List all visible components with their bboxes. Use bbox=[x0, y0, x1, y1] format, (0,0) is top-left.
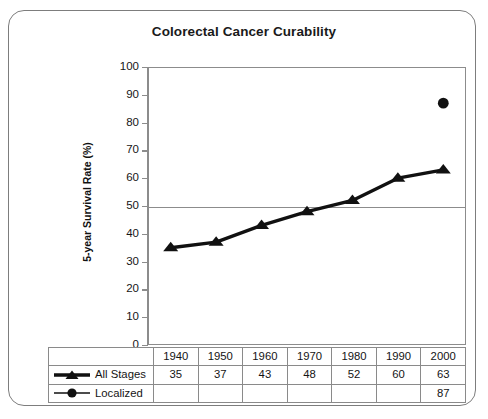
y-tick-label: 20 bbox=[109, 283, 139, 295]
y-tick-label: 40 bbox=[109, 228, 139, 240]
table-cell: 35 bbox=[154, 366, 199, 385]
table-header-year: 1960 bbox=[243, 347, 288, 366]
table-cell bbox=[332, 384, 377, 403]
y-tick-label: 10 bbox=[109, 311, 139, 323]
y-tick-mark bbox=[142, 234, 148, 235]
table-cell bbox=[376, 384, 421, 403]
circle-marker-icon bbox=[53, 386, 91, 400]
y-tick-mark bbox=[142, 206, 148, 207]
table-cell: 87 bbox=[421, 384, 466, 403]
table-cell: 63 bbox=[421, 366, 466, 385]
gridline-50 bbox=[149, 207, 465, 208]
y-tick-label: 50 bbox=[109, 200, 139, 212]
y-tick-mark bbox=[142, 150, 148, 151]
y-tick-label: 30 bbox=[109, 256, 139, 268]
table-cell: 48 bbox=[287, 366, 332, 385]
y-tick-label: 70 bbox=[109, 144, 139, 156]
legend-label-all-stages: All Stages bbox=[95, 366, 146, 384]
table-cell: 60 bbox=[376, 366, 421, 385]
chart-screenshot: Colorectal Cancer Curability 5-year Surv… bbox=[0, 0, 488, 419]
y-tick-mark bbox=[142, 178, 148, 179]
data-table: 1940 1950 1960 1970 1980 1990 2000 All S… bbox=[48, 347, 466, 404]
table-corner-cell bbox=[49, 347, 154, 366]
table-header-year: 1940 bbox=[154, 347, 199, 366]
table-cell bbox=[243, 384, 288, 403]
table-row: Localized 87 bbox=[49, 384, 466, 403]
table-row: All Stages 35 37 43 48 52 60 63 bbox=[49, 366, 466, 385]
table-header-year: 2000 bbox=[421, 347, 466, 366]
legend-label-localized: Localized bbox=[95, 385, 143, 403]
y-tick-mark bbox=[142, 95, 148, 96]
y-tick-mark bbox=[142, 123, 148, 124]
y-tick-mark bbox=[142, 67, 148, 68]
table-header-row: 1940 1950 1960 1970 1980 1990 2000 bbox=[49, 347, 466, 366]
y-tick-label: 90 bbox=[109, 89, 139, 101]
triangle-marker-icon bbox=[53, 368, 91, 382]
table-cell bbox=[198, 384, 243, 403]
y-tick-mark bbox=[142, 289, 148, 290]
table-header-year: 1990 bbox=[376, 347, 421, 366]
table-cell: 43 bbox=[243, 366, 288, 385]
y-tick-label: 80 bbox=[109, 117, 139, 129]
y-tick-mark bbox=[142, 262, 148, 263]
table-header-year: 1950 bbox=[198, 347, 243, 366]
y-tick-label: 60 bbox=[109, 172, 139, 184]
table-header-year: 1970 bbox=[287, 347, 332, 366]
table-cell bbox=[287, 384, 332, 403]
table-cell: 37 bbox=[198, 366, 243, 385]
table-cell: 52 bbox=[332, 366, 377, 385]
legend-item-localized[interactable]: Localized bbox=[49, 384, 154, 403]
page-title: Colorectal Cancer Curability bbox=[0, 24, 488, 39]
y-tick-label: 100 bbox=[109, 61, 139, 73]
table-cell bbox=[154, 384, 199, 403]
y-axis-title: 5-year Survival Rate (%) bbox=[81, 102, 93, 302]
y-tick-mark bbox=[142, 317, 148, 318]
table-header-year: 1980 bbox=[332, 347, 377, 366]
plot-area bbox=[148, 67, 466, 345]
legend-item-all-stages[interactable]: All Stages bbox=[49, 366, 154, 385]
